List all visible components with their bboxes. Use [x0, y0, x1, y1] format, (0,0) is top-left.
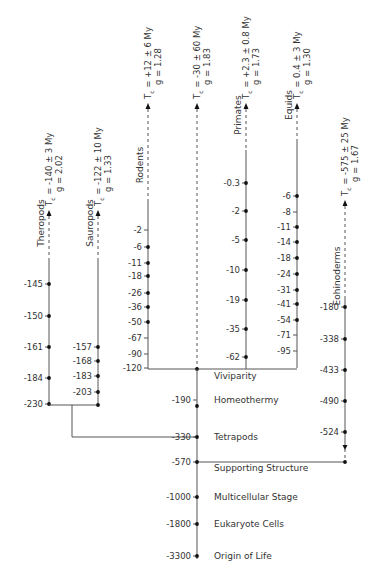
tick-label: -26: [128, 288, 142, 298]
tick-label: -41: [277, 299, 291, 309]
data-point: [195, 460, 199, 464]
evolution-tree-diagram: -145-150-161-184-230TheropodsTc = -140 ±…: [0, 0, 371, 586]
tick-label: -18: [128, 271, 142, 281]
data-point: [244, 181, 248, 185]
trunk-event-label: Origin of Life: [214, 551, 272, 561]
tick-label: -0.3: [223, 178, 240, 188]
tick-label: -120: [123, 363, 142, 373]
data-point: [195, 435, 199, 439]
tick-label: -524: [320, 427, 339, 437]
tick-label: -18: [277, 253, 291, 263]
data-point: [146, 274, 150, 278]
data-point: [146, 245, 150, 249]
data-point: [96, 359, 100, 363]
tick-label: -67: [128, 333, 142, 343]
data-point: [47, 282, 51, 286]
tick-label: -35: [226, 324, 240, 334]
data-point: [295, 240, 299, 244]
tick-label: -54: [277, 315, 291, 325]
arrow-up-icon: [195, 103, 200, 109]
trunk-event-label: Tetrapods: [213, 432, 258, 442]
data-point: [295, 302, 299, 306]
data-point: [244, 355, 248, 359]
tick-label: -161: [24, 342, 43, 352]
tick-label: -338: [320, 334, 339, 344]
data-point: [96, 390, 100, 394]
branch-name-label: Primates: [233, 95, 243, 135]
tick-label: -19: [226, 295, 240, 305]
data-point: [96, 374, 100, 378]
tick-label: -433: [320, 365, 339, 375]
arrow-down-icon: [343, 445, 348, 450]
tick-label: -31: [277, 285, 291, 295]
data-point: [343, 460, 347, 464]
tick-label: -6: [134, 242, 142, 252]
trunk-event-label: Eukaryote Cells: [214, 519, 284, 529]
tick-label: -1800: [166, 519, 191, 529]
tick-label: -90: [128, 349, 142, 359]
g-value-label: g = 1.67: [350, 145, 360, 182]
tick-label: -2: [232, 206, 240, 216]
tick-label: -24: [277, 269, 291, 279]
data-point: [295, 256, 299, 260]
tick-label: -11: [277, 222, 291, 232]
trunk-event-label: Multicellular Stage: [214, 492, 298, 502]
data-point: [47, 376, 51, 380]
tick-label: -50: [128, 317, 142, 327]
data-point: [146, 320, 150, 324]
g-value-label: g = 1.83: [202, 48, 212, 85]
data-point: [343, 399, 347, 403]
g-value-label: g = 1.33: [103, 155, 113, 192]
data-point: [96, 345, 100, 349]
tick-label: -11: [128, 258, 142, 268]
data-point: [47, 314, 51, 318]
g-value-label: g = 1.30: [302, 48, 312, 85]
data-point: [343, 305, 347, 309]
data-point: [295, 288, 299, 292]
tick-label: -190: [172, 395, 191, 405]
g-value-label: g = 1.73: [251, 48, 261, 85]
tick-label: -5: [232, 235, 240, 245]
data-point: [96, 403, 100, 407]
data-point: [343, 337, 347, 341]
tick-label: -183: [73, 371, 92, 381]
tick-label: -145: [24, 279, 43, 289]
data-point: [195, 495, 199, 499]
tick-label: -330: [172, 432, 191, 442]
arrow-up-icon: [146, 103, 151, 109]
tick-label: -36: [128, 302, 142, 312]
data-point: [146, 305, 150, 309]
tick-label: -62: [226, 352, 240, 362]
branch-name-label: Eohinoderms: [332, 246, 342, 305]
data-point: [47, 345, 51, 349]
tick-label: -2: [134, 225, 142, 235]
branch-name-label: Rodents: [135, 146, 145, 183]
arrow-up-icon: [295, 103, 300, 109]
tick-label: -6: [283, 191, 291, 201]
arrow-up-icon: [244, 103, 249, 109]
tick-label: -230: [24, 399, 43, 409]
arrow-up-icon: [343, 200, 348, 206]
data-point: [195, 522, 199, 526]
tick-label: -71: [277, 330, 291, 340]
tick-label: -490: [320, 396, 339, 406]
trunk-event-label: Supporting Structure: [214, 463, 309, 473]
arrow-up-icon: [96, 210, 101, 216]
data-point: [244, 209, 248, 213]
arrow-up-icon: [47, 210, 52, 216]
data-point: [244, 268, 248, 272]
data-point: [295, 194, 299, 198]
tick-label: -10: [226, 265, 240, 275]
data-point: [195, 554, 199, 558]
data-point: [146, 291, 150, 295]
data-point: [195, 404, 199, 408]
g-value-label: g = 1.28: [153, 48, 163, 85]
data-point: [244, 238, 248, 242]
tick-label: -203: [73, 387, 92, 397]
data-point: [244, 327, 248, 331]
trunk-event-label: Viviparity: [214, 371, 257, 381]
data-point: [146, 261, 150, 265]
g-value-label: g = 2.02: [54, 155, 64, 192]
data-point: [295, 272, 299, 276]
tick-label: -184: [24, 373, 43, 383]
